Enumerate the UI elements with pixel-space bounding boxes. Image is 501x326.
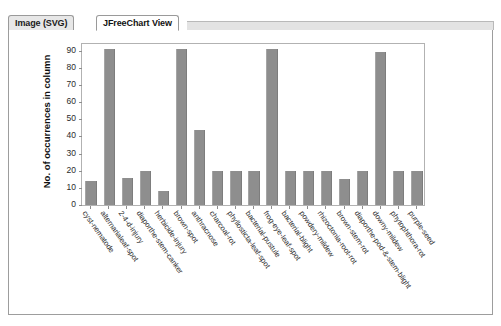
y-tick-mark [79,51,82,52]
y-tick-mark [79,119,82,120]
tab-jfreechart-view[interactable]: JFreeChart View [96,15,179,31]
plot-area: 0102030405060708090 [81,43,425,206]
bar [321,171,332,205]
bar [357,171,368,205]
y-tick-label: 70 [67,79,76,89]
y-tick-label: 80 [67,62,76,72]
chart-panel: No. of occurrences in column 01020304050… [8,30,493,315]
bar [411,171,422,205]
bar [303,171,314,205]
bar [266,49,277,205]
y-tick-label: 10 [67,182,76,192]
y-tick-mark [79,85,82,86]
y-tick-label: 20 [67,165,76,175]
tab-bar: Image (SVG) JFreeChart View [8,14,493,31]
bar [176,49,187,205]
bar [212,171,223,205]
tab-bar-filler [187,21,494,30]
bar-chart: No. of occurrences in column 01020304050… [23,34,485,310]
bar [248,171,259,205]
y-tick-label: 50 [67,113,76,123]
bar [375,52,386,205]
bar [158,191,169,205]
y-axis-title: No. of occurrences in column [41,47,52,197]
bar [393,171,404,205]
bar [104,49,115,205]
bar [230,171,241,205]
y-tick-label: 0 [71,199,76,209]
bar [339,179,350,205]
y-tick-label: 30 [67,148,76,158]
y-tick-mark [79,136,82,137]
y-tick-label: 60 [67,96,76,106]
bar [285,171,296,205]
jfreechart-window: Image (SVG) JFreeChart View No. of occur… [0,0,501,326]
y-tick-mark [79,154,82,155]
tab-image-svg[interactable]: Image (SVG) [8,15,74,31]
bar [122,178,133,205]
y-tick-mark [79,188,82,189]
bar [194,130,205,205]
x-axis-labels: cyst-nematodealternarialeaf-spot2-4-d-in… [81,209,425,309]
y-tick-mark [79,171,82,172]
y-tick-mark [79,102,82,103]
bar [85,181,96,205]
y-tick-mark [79,68,82,69]
bar-series [82,44,424,205]
y-tick-label: 90 [67,45,76,55]
bar [140,171,151,205]
y-tick-label: 40 [67,130,76,140]
